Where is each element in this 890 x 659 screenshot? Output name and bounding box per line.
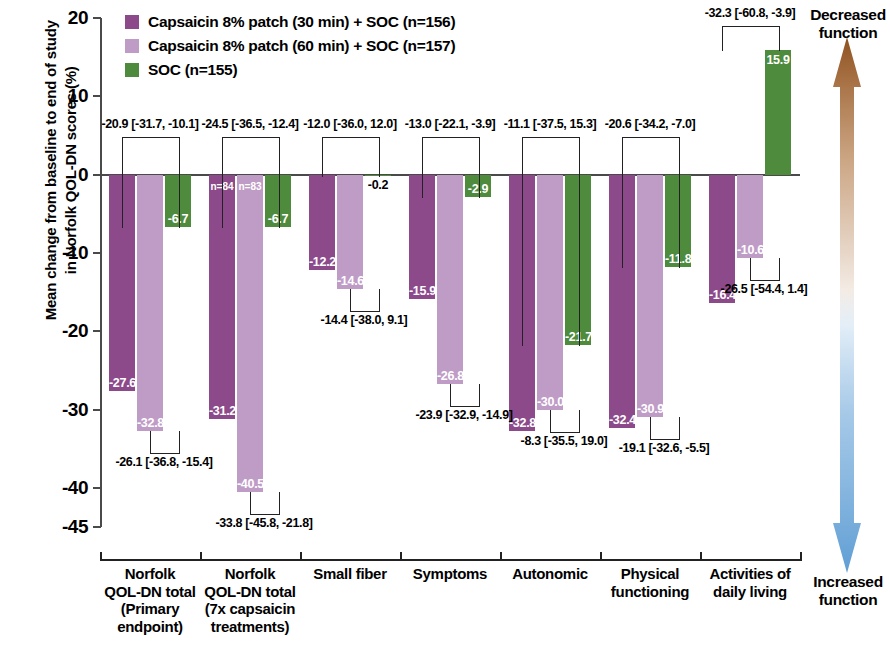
bar[interactable] xyxy=(337,175,363,289)
y-tick-label: -10 xyxy=(28,242,88,264)
y-tick xyxy=(93,526,101,528)
bar-value-label: -12.2 xyxy=(309,255,335,269)
x-category-line: (Primary xyxy=(100,600,200,618)
function-direction-annotation: Decreasedfunction Increasedfunct xyxy=(806,0,890,659)
x-category-line: daily living xyxy=(700,583,800,601)
comparison-bracket xyxy=(350,289,380,312)
x-axis-line xyxy=(100,559,800,561)
bar-value-label: -30.9 xyxy=(637,402,663,416)
up-arrow-icon xyxy=(832,35,862,325)
comparison-bracket xyxy=(322,137,380,178)
x-category-label: NorfolkQOL-DN total(Primaryendpoint) xyxy=(100,565,200,636)
comparison-bracket xyxy=(650,417,680,440)
bar[interactable] xyxy=(437,175,463,385)
increased-function-label: Increasedfunction xyxy=(806,573,890,610)
comparison-bracket xyxy=(550,410,580,433)
comparison-bracket xyxy=(150,431,180,454)
legend-swatch-icon xyxy=(125,39,139,53)
x-category-line: (7x capsaicin xyxy=(200,600,300,618)
comparison-bracket xyxy=(722,26,780,51)
x-category-line: endpoint) xyxy=(100,618,200,636)
bar-value-label: -0.2 xyxy=(365,178,391,192)
x-category-label: Physicalfunctioning xyxy=(600,565,700,600)
x-category-line: functioning xyxy=(600,583,700,601)
x-category-line: Autonomic xyxy=(500,565,600,583)
y-tick-label: 10 xyxy=(28,85,88,107)
bar-value-label: -14.6 xyxy=(337,274,363,288)
chart-figure: Mean change from baseline to end of stud… xyxy=(0,0,890,659)
legend-item-2[interactable]: SOC (n=155) xyxy=(125,58,455,82)
bar-value-label: 15.9 xyxy=(765,53,791,67)
x-category-line: Activities of xyxy=(700,565,800,583)
x-tick xyxy=(400,552,402,561)
plot-area: 20100-10-20-30-40-45 -27.6-31.2-12.2-15.… xyxy=(100,18,800,527)
y-tick-label: -20 xyxy=(28,320,88,342)
y-tick xyxy=(93,252,101,254)
comparison-bracket xyxy=(450,384,480,407)
legend-item-label: SOC (n=155) xyxy=(148,61,237,79)
x-category-line: treatments) xyxy=(200,618,300,636)
bar-value-label: -31.2 xyxy=(209,404,235,418)
side-label-line: Increased xyxy=(806,573,890,591)
x-tick xyxy=(600,552,602,561)
x-tick xyxy=(300,552,302,561)
bar-value-label: -32.4 xyxy=(609,413,635,427)
comparison-bracket xyxy=(122,137,180,228)
bar-value-label: -10.6 xyxy=(737,243,763,257)
legend-item-label: Capsaicin 8% patch (30 min) + SOC (n=156… xyxy=(148,13,455,31)
legend-item-label: Capsaicin 8% patch (60 min) + SOC (n=157… xyxy=(148,37,455,55)
confidence-interval-label: -26.1 [-36.8, -15.4] xyxy=(79,455,249,469)
x-tick xyxy=(700,552,702,561)
x-category-label: NorfolkQOL-DN total(7x capsaicintreatmen… xyxy=(200,565,300,636)
y-tick-label: 20 xyxy=(28,7,88,29)
y-tick-label: 0 xyxy=(28,164,88,186)
chart-legend: Capsaicin 8% patch (30 min) + SOC (n=156… xyxy=(125,10,455,82)
x-category-label: Symptoms xyxy=(400,565,500,583)
x-category-line: QOL-DN total xyxy=(200,583,300,601)
x-category-line: Physical xyxy=(600,565,700,583)
side-label-line: Decreased xyxy=(806,6,890,24)
comparison-bracket xyxy=(250,492,280,515)
x-category-line: Norfolk xyxy=(100,565,200,583)
legend-item-0[interactable]: Capsaicin 8% patch (30 min) + SOC (n=156… xyxy=(125,10,455,34)
y-tick-label: -30 xyxy=(28,399,88,421)
x-tick xyxy=(100,552,102,561)
legend-swatch-icon xyxy=(125,63,139,77)
bar-value-label: -26.8 xyxy=(437,369,463,383)
bar-value-label: -27.6 xyxy=(109,376,135,390)
x-category-line: Symptoms xyxy=(400,565,500,583)
comparison-bracket xyxy=(422,137,480,199)
y-tick xyxy=(93,487,101,489)
bar[interactable] xyxy=(765,50,791,175)
legend-item-1[interactable]: Capsaicin 8% patch (60 min) + SOC (n=157… xyxy=(125,34,455,58)
y-tick xyxy=(93,95,101,97)
down-arrow-icon xyxy=(832,290,862,575)
bar-value-label: -30.0 xyxy=(537,395,563,409)
y-tick-label: -45 xyxy=(28,516,88,538)
x-category-line: QOL-DN total xyxy=(100,583,200,601)
x-category-label: Activities ofdaily living xyxy=(700,565,800,600)
comparison-bracket xyxy=(750,258,780,281)
confidence-interval-label: -23.9 [-32.9, -14.9] xyxy=(379,408,549,422)
x-tick xyxy=(800,552,802,561)
confidence-interval-label: -14.4 [-38.0, 9.1] xyxy=(279,313,449,327)
bar-value-label: -40.5 xyxy=(237,477,263,491)
y-tick xyxy=(93,330,101,332)
bar-value-label: -15.9 xyxy=(409,284,435,298)
comparison-bracket xyxy=(222,137,280,228)
confidence-interval-label: -33.8 [-45.8, -21.8] xyxy=(179,516,349,530)
bar-value-label: -32.8 xyxy=(137,416,163,430)
y-tick xyxy=(93,17,101,19)
confidence-interval-label: -19.1 [-32.6, -5.5] xyxy=(579,441,749,455)
confidence-interval-label: -20.6 [-34.2, -7.0] xyxy=(565,117,735,131)
x-category-line: Norfolk xyxy=(200,565,300,583)
side-label-line: function xyxy=(806,591,890,609)
x-tick xyxy=(200,552,202,561)
comparison-bracket xyxy=(522,137,580,346)
x-category-label: Autonomic xyxy=(500,565,600,583)
y-tick xyxy=(93,409,101,411)
legend-swatch-icon xyxy=(125,15,139,29)
x-category-line: Small fiber xyxy=(300,565,400,583)
x-tick xyxy=(500,552,502,561)
x-category-label: Small fiber xyxy=(300,565,400,583)
